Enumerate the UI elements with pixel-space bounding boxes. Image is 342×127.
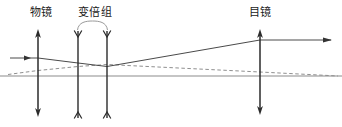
objective-lens xyxy=(35,29,41,117)
solid-ray-midsection xyxy=(38,40,260,67)
label-eyepiece: 目镜 xyxy=(249,5,272,19)
zoom-lens-front xyxy=(74,31,82,119)
zoom-group-brace xyxy=(78,21,108,30)
label-objective: 物镜 xyxy=(30,5,53,19)
optical-diagram-canvas: 物镜 变倍组 目镜 xyxy=(0,0,342,127)
label-zoom-group: 变倍组 xyxy=(78,5,113,19)
zoom-lens-rear xyxy=(103,31,111,119)
exit-ray-arrowhead-icon xyxy=(323,38,332,43)
dashed-chief-ray xyxy=(8,65,338,77)
incoming-ray-arrowhead-icon xyxy=(24,56,31,61)
optical-diagram: 物镜 变倍组 目镜 xyxy=(0,0,342,127)
